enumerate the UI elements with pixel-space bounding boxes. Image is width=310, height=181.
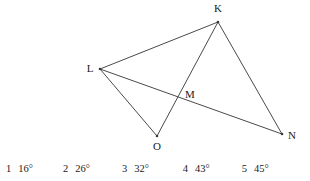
vertex-dot-O (156, 135, 159, 138)
segment-K-O (157, 22, 218, 136)
answer-option-4-value: 43° (195, 163, 210, 174)
vertex-label-N: N (288, 129, 296, 141)
vertex-label-group: K L M O N (87, 2, 296, 152)
answer-option-4[interactable]: 4 43° (183, 163, 210, 174)
answer-option-1-value: 16° (18, 163, 33, 174)
answer-option-5-value: 45° (254, 163, 269, 174)
segment-L-K (100, 22, 218, 69)
answer-option-2-value: 26° (75, 163, 90, 174)
answer-option-1-number: 1 (6, 163, 11, 174)
vertex-label-O: O (153, 140, 161, 152)
vertex-dot-L (99, 68, 102, 71)
geometry-figure: K L M O N (0, 0, 310, 152)
vertex-dot-K (217, 21, 220, 24)
vertex-label-L: L (87, 62, 94, 74)
geometry-diagram: K L M O N (0, 0, 310, 152)
answer-option-2-number: 2 (63, 163, 68, 174)
answer-option-4-number: 4 (183, 163, 188, 174)
answer-option-5[interactable]: 5 45° (242, 163, 269, 174)
vertex-label-K: K (214, 2, 222, 14)
answer-option-5-number: 5 (242, 163, 247, 174)
vertex-dot-N (281, 133, 284, 136)
answer-option-1[interactable]: 1 16° (6, 163, 33, 174)
vertex-label-M: M (185, 88, 195, 100)
answer-option-3[interactable]: 3 32° (122, 163, 149, 174)
answer-options-row: 1 16° 2 26° 3 32° 4 43° 5 45° (0, 155, 310, 181)
answer-option-3-value: 32° (134, 163, 149, 174)
segment-K-N (218, 22, 282, 134)
answer-option-3-number: 3 (122, 163, 127, 174)
answer-option-2[interactable]: 2 26° (63, 163, 90, 174)
vertex-dot-group (99, 21, 284, 138)
segment-group (100, 22, 282, 136)
